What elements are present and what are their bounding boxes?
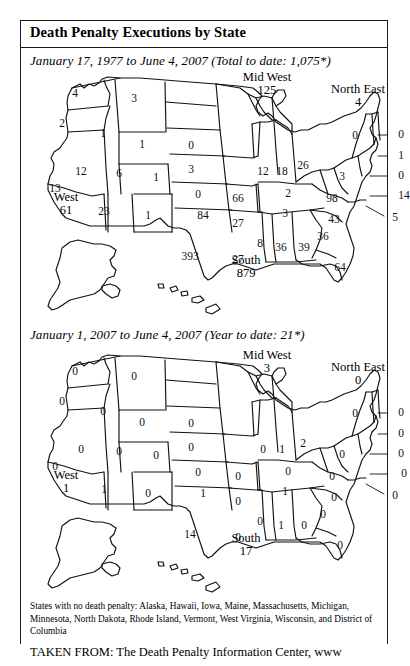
region-label-south: South879 xyxy=(231,254,260,280)
state-value-ok: 84 xyxy=(197,210,209,222)
state-value-ga: 39 xyxy=(298,242,310,254)
state-border xyxy=(170,564,178,570)
state-border xyxy=(104,80,110,106)
map-year-to-date: 000000000100001140000100012010000000000W… xyxy=(20,350,388,595)
state-border xyxy=(334,156,358,168)
state-border xyxy=(170,286,178,292)
state-value-wa: 4 xyxy=(72,88,78,100)
state-border xyxy=(168,164,170,194)
state-border xyxy=(167,128,220,130)
region-total: 1 xyxy=(54,482,79,495)
state-value-ne: 0 xyxy=(188,442,194,454)
state-border xyxy=(48,240,116,310)
callout-value-3: 0 xyxy=(398,448,404,460)
state-border xyxy=(258,184,260,212)
callout-value-3: 0 xyxy=(398,170,404,182)
state-value-id: 0 xyxy=(100,406,106,418)
state-value-mo: 66 xyxy=(232,193,244,205)
callout-value-2: 0 xyxy=(398,428,404,440)
state-value-tx: 14 xyxy=(184,529,196,541)
state-border xyxy=(166,380,216,384)
callout-value-4: 0 xyxy=(401,468,407,480)
state-border xyxy=(181,291,188,296)
state-border xyxy=(252,124,254,158)
state-border xyxy=(272,214,276,262)
state-value-mo: 0 xyxy=(235,471,241,483)
state-border xyxy=(68,130,104,132)
state-value-sc: 36 xyxy=(317,231,329,243)
region-label-south: South17 xyxy=(231,532,260,558)
state-border xyxy=(258,400,260,434)
state-border xyxy=(348,200,366,202)
state-value-ky: 2 xyxy=(285,188,291,200)
state-border xyxy=(334,434,358,446)
state-border xyxy=(172,460,228,462)
state-value-nm: 1 xyxy=(145,210,151,222)
state-border xyxy=(170,154,225,156)
state-value-co: 1 xyxy=(153,172,159,184)
region-total: 4 xyxy=(331,96,385,109)
state-value-tn: 1 xyxy=(282,486,288,498)
state-border xyxy=(229,488,262,490)
state-border xyxy=(115,80,119,132)
state-value-oh: 26 xyxy=(297,160,309,172)
state-value-il: 0 xyxy=(260,444,266,456)
state-border xyxy=(292,490,296,538)
region-total: 17 xyxy=(231,545,260,558)
state-border xyxy=(48,518,116,588)
state-value-wy: 1 xyxy=(139,139,145,151)
state-value-al: 1 xyxy=(278,520,284,532)
state-border xyxy=(316,250,336,258)
state-border xyxy=(229,210,262,212)
region-label-west: West61 xyxy=(54,191,79,217)
state-value-ks: 0 xyxy=(195,189,201,201)
state-border xyxy=(258,460,312,462)
state-border xyxy=(158,284,164,288)
state-border xyxy=(292,412,296,460)
state-border xyxy=(252,398,276,402)
state-border xyxy=(102,562,120,576)
source-attribution: TAKEN FROM: The Death Penalty Informatio… xyxy=(30,645,390,660)
state-value-ar: 27 xyxy=(232,218,244,230)
page-title: Death Penalty Executions by State xyxy=(30,24,246,41)
state-border xyxy=(292,212,296,260)
state-border xyxy=(266,538,316,540)
state-border xyxy=(372,392,374,422)
state-value-il: 12 xyxy=(257,166,269,178)
state-value-mt: 0 xyxy=(131,371,137,383)
state-border xyxy=(68,408,104,410)
state-value-sd: 0 xyxy=(188,140,194,152)
state-border xyxy=(168,442,170,472)
map1-caption: January 17, 1977 to June 4, 2007 (Total … xyxy=(30,53,331,69)
state-value-ok: 1 xyxy=(200,488,206,500)
state-value-az: 23 xyxy=(98,206,110,218)
state-value-pa: 0 xyxy=(339,449,345,461)
state-value-id: 1 xyxy=(100,128,106,140)
state-value-pa: 3 xyxy=(339,171,345,183)
state-border xyxy=(226,184,258,186)
state-value-ny: 0 xyxy=(352,130,358,142)
state-border xyxy=(223,156,258,158)
state-border xyxy=(258,122,260,156)
state-value-nv: 0 xyxy=(78,444,84,456)
state-border xyxy=(258,462,260,490)
state-value-or: 0 xyxy=(59,396,65,408)
state-value-mt: 3 xyxy=(131,93,137,105)
callout-value-1: 0 xyxy=(398,407,404,419)
state-border xyxy=(266,260,316,262)
region-total: 61 xyxy=(54,204,79,217)
state-border xyxy=(223,434,258,436)
state-value-in: 18 xyxy=(276,166,288,178)
state-value-nc: 0 xyxy=(331,492,337,504)
state-border xyxy=(358,156,362,176)
callout-leader-line xyxy=(366,484,384,494)
state-value-nv: 12 xyxy=(75,166,87,178)
state-value-wa: 0 xyxy=(72,366,78,378)
state-value-ut: 6 xyxy=(116,168,122,180)
region-label-north-east: North East4 xyxy=(331,83,385,109)
state-border xyxy=(272,492,276,540)
state-value-or: 2 xyxy=(59,118,65,130)
callout-value-2: 1 xyxy=(398,150,404,162)
state-value-wy: 0 xyxy=(139,417,145,429)
